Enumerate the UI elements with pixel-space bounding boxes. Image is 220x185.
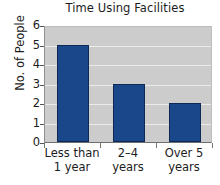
x-axis-tick-label: Over 5years [150, 147, 218, 174]
y-axis-tick-label: 3 [26, 79, 40, 91]
y-axis-tick-label: 2 [26, 98, 40, 110]
x-axis-tick-mark [100, 143, 101, 148]
chart-title: Time Using Facilities [30, 1, 220, 15]
plot-area [44, 26, 212, 143]
bar [57, 45, 89, 143]
y-axis-tick-mark [40, 124, 44, 125]
y-axis-tick-mark [40, 85, 44, 86]
bar-chart-figure: Time Using Facilities No. of People 0123… [0, 0, 220, 185]
x-axis-tick-mark [156, 143, 157, 148]
y-axis-tick-label: 5 [26, 40, 40, 52]
y-axis-tick-label: 6 [26, 20, 40, 32]
x-axis-tick-mark [212, 143, 213, 148]
x-axis-tick-label-line: Less than [44, 146, 99, 160]
y-axis-tick-mark [40, 104, 44, 105]
x-axis-tick-label-line: years [150, 161, 218, 175]
x-axis-tick-label-line: 2–4 [118, 146, 138, 160]
y-axis-tick-mark [40, 46, 44, 47]
bar [113, 84, 145, 143]
x-axis-tick-label-line: Over 5 [165, 146, 204, 160]
y-axis-tick-mark [40, 26, 44, 27]
y-axis-tick-mark [40, 65, 44, 66]
bar [169, 103, 201, 142]
y-axis-tick-label: 1 [26, 118, 40, 130]
x-axis-tick-mark [44, 143, 45, 148]
y-axis-tick-label: 4 [26, 59, 40, 71]
